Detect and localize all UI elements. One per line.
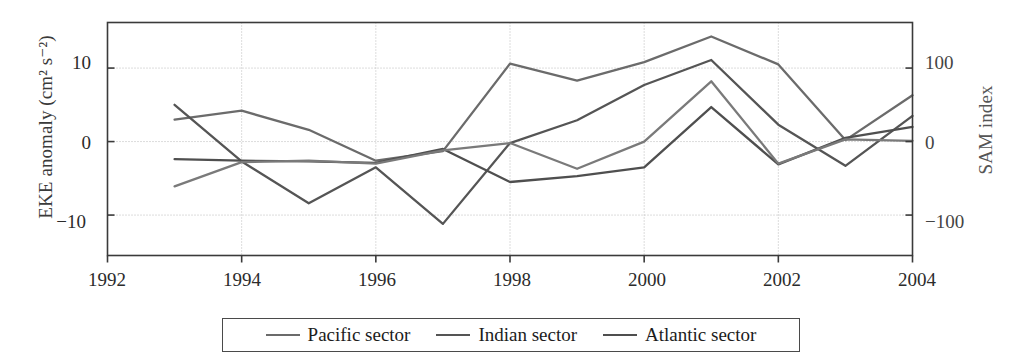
- y-axis-right-tick-0: 0: [925, 132, 985, 154]
- legend-label-pacific: Pacific sector: [308, 324, 411, 346]
- x-axis-tick-1996: 1996: [337, 269, 417, 291]
- plot-area: [0, 0, 1029, 364]
- legend-entry-pacific: Pacific sector: [266, 324, 411, 346]
- y-axis-left-tick-0: 0: [31, 132, 91, 154]
- x-axis-tick-1994: 1994: [202, 269, 282, 291]
- data-lines: [175, 36, 913, 223]
- y-axis-left-tick-neg10: −10: [26, 211, 86, 233]
- legend-entry-atlantic: Atlantic sector: [603, 324, 756, 346]
- y-axis-right-tick-100: 100: [925, 52, 985, 74]
- x-axis-tick-2000: 2000: [607, 269, 687, 291]
- y-axis-left-tick-10: 10: [31, 52, 91, 74]
- legend-swatch-atlantic: [603, 334, 637, 336]
- legend-label-indian: Indian sector: [478, 324, 577, 346]
- legend: Pacific sector Indian sector Atlantic se…: [222, 318, 800, 352]
- x-axis-tick-1998: 1998: [472, 269, 552, 291]
- legend-label-atlantic: Atlantic sector: [645, 324, 756, 346]
- legend-entry-indian: Indian sector: [436, 324, 577, 346]
- y-axis-right-tick-neg100: −100: [925, 211, 985, 233]
- gridlines: [108, 23, 913, 256]
- legend-swatch-pacific: [266, 334, 300, 336]
- legend-swatch-indian: [436, 334, 470, 336]
- x-axis-tick-1992: 1992: [67, 269, 147, 291]
- chart-figure: EKE anomaly (cm² s⁻²) SAM index 10 0 −10…: [0, 0, 1029, 364]
- x-axis-tick-2004: 2004: [877, 269, 957, 291]
- x-axis-tick-2002: 2002: [742, 269, 822, 291]
